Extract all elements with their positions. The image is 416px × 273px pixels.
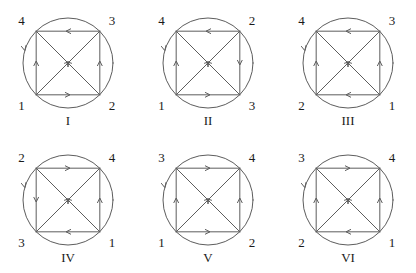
vertex-label-top-left: 4 [158, 14, 165, 27]
vertex-label-bottom-right: 1 [389, 99, 396, 112]
figure-caption-v: V [140, 251, 276, 265]
circle-direction-arrowhead-icon [301, 45, 306, 50]
vertex-label-bottom-left: 2 [298, 236, 305, 249]
circle-direction-arrowhead-icon [161, 182, 166, 187]
vertex-label-top-left: 3 [158, 151, 165, 164]
vertex-label-bottom-left: 1 [158, 99, 165, 112]
figure-caption-iv: IV [0, 251, 136, 265]
vertex-label-top-right: 4 [249, 151, 256, 164]
vertex-label-top-right: 2 [249, 14, 256, 27]
vertex-label-bottom-left: 2 [298, 99, 305, 112]
vertex-label-bottom-left: 1 [18, 99, 25, 112]
vertex-label-top-left: 4 [298, 14, 305, 27]
figure-vi: 3421VI [280, 137, 416, 273]
vertex-label-bottom-right: 1 [389, 236, 396, 249]
figure-i: 4312I [0, 0, 136, 136]
vertex-label-bottom-right: 3 [249, 99, 256, 112]
figure-v: 3412V [140, 137, 276, 273]
vertex-label-bottom-left: 1 [158, 236, 165, 249]
figure-caption-iii: III [280, 114, 416, 128]
vertex-label-top-right: 3 [389, 14, 396, 27]
figure-ii: 4213II [140, 0, 276, 136]
figure-caption-ii: II [140, 114, 276, 128]
vertex-label-bottom-right: 1 [109, 236, 116, 249]
circle-direction-arrowhead-icon [161, 45, 166, 50]
figure-iv: 2431IV [0, 137, 136, 273]
vertex-label-top-left: 2 [18, 151, 25, 164]
figure-iii: 4321III [280, 0, 416, 136]
vertex-label-top-right: 3 [109, 14, 116, 27]
vertex-label-bottom-right: 2 [109, 99, 116, 112]
vertex-label-top-left: 3 [298, 151, 305, 164]
vertex-label-top-right: 4 [389, 151, 396, 164]
vertex-label-bottom-right: 2 [249, 236, 256, 249]
diagram-canvas: 4312I4213II4321III2431IV3412V3421VI [0, 0, 416, 273]
vertex-label-top-right: 4 [109, 151, 116, 164]
vertex-label-top-left: 4 [18, 14, 25, 27]
circle-direction-arrowhead-icon [21, 182, 26, 187]
circle-direction-arrowhead-icon [21, 45, 26, 50]
vertex-label-bottom-left: 3 [18, 236, 25, 249]
figure-caption-vi: VI [280, 251, 416, 265]
figure-caption-i: I [0, 114, 136, 128]
circle-direction-arrowhead-icon [301, 182, 306, 187]
